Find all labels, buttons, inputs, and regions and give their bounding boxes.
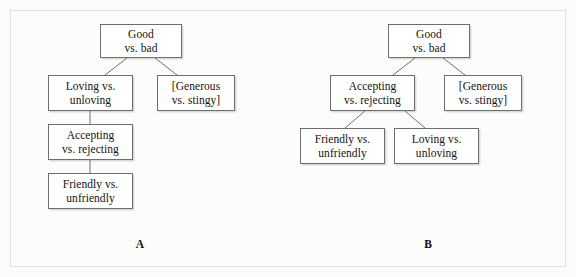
node-label-line1: Friendly vs. xyxy=(63,177,119,191)
panel-a: Good vs. bad Loving vs. unloving [Genero… xyxy=(0,0,288,277)
node-a-accepting[interactable]: Accepting vs. rejecting xyxy=(48,124,133,160)
node-label-line2: vs. rejecting xyxy=(62,142,119,156)
node-label-line2: vs. stingy] xyxy=(172,93,220,107)
node-b-good[interactable]: Good vs. bad xyxy=(388,24,470,58)
node-label-line2: vs. bad xyxy=(413,41,446,55)
node-label-line1: Loving vs. xyxy=(66,79,116,93)
node-label-line1: Accepting xyxy=(349,79,397,93)
figure-canvas: Good vs. bad Loving vs. unloving [Genero… xyxy=(0,0,576,277)
node-a-friendly[interactable]: Friendly vs. unfriendly xyxy=(48,173,133,209)
panel-label-b: B xyxy=(408,238,448,250)
panel-label-a: A xyxy=(120,238,160,250)
node-label-line1: [Generous xyxy=(459,79,507,93)
node-b-accepting[interactable]: Accepting vs. rejecting xyxy=(330,75,415,111)
node-a-good[interactable]: Good vs. bad xyxy=(100,24,182,58)
node-label-line1: Good xyxy=(416,27,442,41)
node-label-line2: vs. rejecting xyxy=(344,93,401,107)
node-label-line2: unfriendly xyxy=(66,191,114,205)
node-b-friendly[interactable]: Friendly vs. unfriendly xyxy=(300,128,385,164)
node-b-generous[interactable]: [Generous vs. stingy] xyxy=(444,75,522,111)
node-label-line2: unloving xyxy=(416,146,457,160)
node-label-line1: Accepting xyxy=(67,128,115,142)
node-label-line2: vs. bad xyxy=(125,41,158,55)
panel-b: Good vs. bad Accepting vs. rejecting [Ge… xyxy=(288,0,576,277)
node-label-line1: Loving vs. xyxy=(412,132,462,146)
node-label-line1: [Generous xyxy=(172,79,220,93)
node-label-line1: Good xyxy=(128,27,154,41)
node-label-line2: unfriendly xyxy=(318,146,366,160)
node-a-loving[interactable]: Loving vs. unloving xyxy=(48,75,133,111)
node-a-generous[interactable]: [Generous vs. stingy] xyxy=(157,75,235,111)
node-label-line2: vs. stingy] xyxy=(459,93,507,107)
node-b-loving[interactable]: Loving vs. unloving xyxy=(394,128,479,164)
node-label-line1: Friendly vs. xyxy=(315,132,371,146)
node-label-line2: unloving xyxy=(70,93,111,107)
